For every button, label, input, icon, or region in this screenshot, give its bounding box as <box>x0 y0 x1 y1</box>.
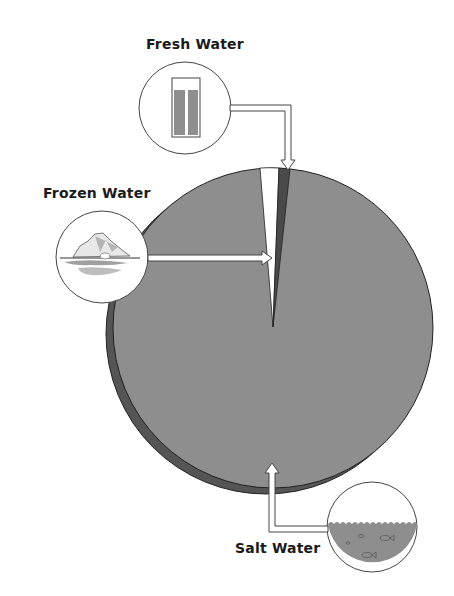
fresh-water-arrow <box>230 105 295 170</box>
salt-water-icon <box>327 482 417 572</box>
fresh-water-label: Fresh Water <box>146 36 244 52</box>
fresh-water-icon <box>139 62 231 154</box>
water-pie-diagram <box>0 0 454 596</box>
frozen-water-label: Frozen Water <box>43 185 151 201</box>
frozen-water-icon <box>56 211 148 303</box>
salt-water-label: Salt Water <box>235 540 320 556</box>
